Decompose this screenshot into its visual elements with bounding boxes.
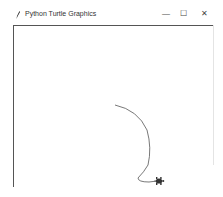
turtle-drawing xyxy=(0,0,223,197)
turtle-icon xyxy=(154,177,164,185)
pen-trail xyxy=(115,105,157,182)
